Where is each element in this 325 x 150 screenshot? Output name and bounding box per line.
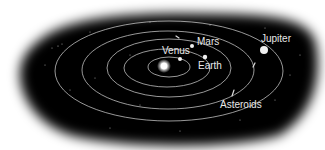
planet-label-mars: Mars	[197, 37, 219, 47]
solar-system-diagram	[0, 0, 325, 150]
planet-label-earth: Earth	[198, 61, 222, 71]
planet-label-jupiter: Jupiter	[261, 34, 291, 44]
planet-jupiter	[260, 46, 268, 54]
planet-mars	[190, 44, 194, 48]
planet-venus	[178, 57, 182, 61]
sun	[157, 59, 171, 73]
planet-earth	[203, 55, 207, 59]
asteroids-label: Asteroids	[220, 100, 262, 110]
planet-label-venus: Venus	[162, 46, 190, 56]
